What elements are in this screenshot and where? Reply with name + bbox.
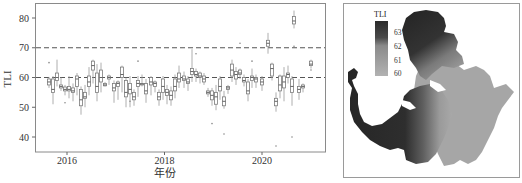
y-axis-label: TLI [1, 70, 13, 87]
boxplot-panel: 4050607080 201620182020 TLI 年份 [0, 0, 340, 183]
legend-title: TLI [374, 10, 387, 19]
x-axis-ticks: 201620182020 [57, 152, 272, 166]
legend-label-60: 60 [394, 69, 402, 78]
legend-label-62: 62 [394, 42, 402, 51]
x-tick-label: 2016 [57, 155, 77, 166]
y-tick-label: 60 [19, 72, 29, 83]
lake-map [348, 10, 514, 166]
y-tick-label: 40 [19, 132, 29, 143]
y-axis-ticks: 4050607080 [19, 13, 36, 143]
legend-label-61: 61 [394, 56, 402, 65]
x-tick-label: 2018 [155, 155, 175, 166]
tli-map-panel: TLI 63 62 61 60 [343, 3, 520, 178]
legend-label-63: 63 [394, 28, 402, 37]
x-axis-label: 年份 [154, 166, 176, 179]
x-tick-label: 2020 [252, 155, 272, 166]
y-tick-label: 80 [19, 13, 29, 24]
y-tick-label: 50 [19, 102, 29, 113]
y-tick-label: 70 [19, 42, 29, 53]
colorbar [375, 21, 388, 76]
